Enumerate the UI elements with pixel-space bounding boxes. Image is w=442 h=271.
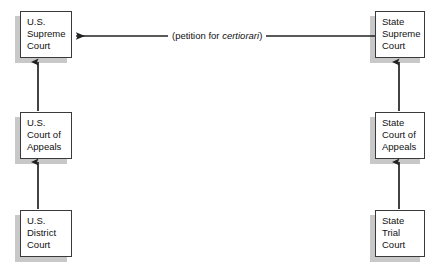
certiorari-label-prefix: (petition for	[172, 30, 222, 41]
node-state-trial-court[interactable]: State Trial Court	[375, 210, 425, 257]
edge-label-certiorari: (petition for certiorari)	[168, 30, 266, 41]
node-state-supreme-court[interactable]: State Supreme Court	[375, 11, 425, 58]
node-state-court-of-appeals[interactable]: State Court of Appeals	[375, 112, 425, 159]
certiorari-label-suffix: )	[259, 30, 262, 41]
node-us-court-of-appeals[interactable]: U.S. Court of Appeals	[20, 112, 72, 159]
node-us-supreme-court[interactable]: U.S. Supreme Court	[20, 11, 72, 58]
court-system-diagram: U.S. Supreme Court U.S. Court of Appeals…	[0, 0, 442, 271]
certiorari-label-italic: certiorari	[222, 30, 259, 41]
node-us-district-court[interactable]: U.S. District Court	[20, 210, 72, 257]
